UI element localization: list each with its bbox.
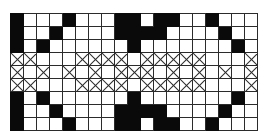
pattern-cell-cross[interactable] — [128, 66, 141, 79]
pattern-cell-empty[interactable] — [180, 40, 193, 53]
pattern-cell-empty[interactable] — [232, 53, 245, 66]
pattern-cell-filled[interactable] — [115, 118, 128, 131]
pattern-cell-empty[interactable] — [63, 40, 76, 53]
pattern-cell-cross[interactable] — [76, 79, 89, 92]
pattern-cell-cross[interactable] — [24, 53, 37, 66]
pattern-cell-empty[interactable] — [37, 79, 50, 92]
pattern-cell-empty[interactable] — [193, 27, 206, 40]
pattern-cell-filled[interactable] — [167, 14, 180, 27]
pattern-cell-empty[interactable] — [102, 40, 115, 53]
pattern-cell-filled[interactable] — [128, 118, 141, 131]
pattern-cell-empty[interactable] — [63, 27, 76, 40]
pattern-cell-empty[interactable] — [206, 27, 219, 40]
pattern-cell-empty[interactable] — [219, 92, 232, 105]
pattern-cell-empty[interactable] — [219, 79, 232, 92]
pattern-cell-empty[interactable] — [50, 40, 63, 53]
pattern-cell-filled[interactable] — [50, 105, 63, 118]
pattern-cell-empty[interactable] — [115, 40, 128, 53]
pattern-cell-filled[interactable] — [232, 40, 245, 53]
pattern-cell-cross[interactable] — [115, 66, 128, 79]
pattern-cell-empty[interactable] — [206, 79, 219, 92]
pattern-cell-empty[interactable] — [219, 118, 232, 131]
pattern-cell-empty[interactable] — [180, 118, 193, 131]
pattern-cell-empty[interactable] — [89, 118, 102, 131]
pattern-cell-empty[interactable] — [24, 14, 37, 27]
pattern-cell-cross[interactable] — [167, 79, 180, 92]
pattern-cell-cross[interactable] — [154, 53, 167, 66]
pattern-cell-empty[interactable] — [102, 14, 115, 27]
pattern-cell-cross[interactable] — [76, 53, 89, 66]
pattern-cell-filled[interactable] — [206, 14, 219, 27]
pattern-cell-empty[interactable] — [76, 40, 89, 53]
pattern-cell-empty[interactable] — [24, 27, 37, 40]
pattern-cell-cross[interactable] — [193, 66, 206, 79]
pattern-cell-filled[interactable] — [11, 105, 24, 118]
pattern-cell-cross[interactable] — [89, 66, 102, 79]
pattern-cell-empty[interactable] — [76, 14, 89, 27]
pattern-cell-cross[interactable] — [102, 79, 115, 92]
pattern-cell-filled[interactable] — [232, 92, 245, 105]
pattern-cell-cross[interactable] — [89, 79, 102, 92]
pattern-cell-empty[interactable] — [180, 66, 193, 79]
pattern-cell-filled[interactable] — [128, 105, 141, 118]
pattern-cell-empty[interactable] — [50, 66, 63, 79]
pattern-cell-empty[interactable] — [141, 92, 154, 105]
pattern-cell-empty[interactable] — [154, 66, 167, 79]
pattern-cell-cross[interactable] — [193, 79, 206, 92]
pattern-cell-empty[interactable] — [102, 66, 115, 79]
pattern-cell-cross[interactable] — [37, 66, 50, 79]
pattern-cell-empty[interactable] — [193, 118, 206, 131]
pattern-cell-empty[interactable] — [219, 14, 232, 27]
pattern-cell-empty[interactable] — [37, 27, 50, 40]
pattern-cell-filled[interactable] — [11, 118, 24, 131]
pattern-cell-empty[interactable] — [50, 53, 63, 66]
pattern-cell-empty[interactable] — [37, 118, 50, 131]
pattern-cell-filled[interactable] — [141, 27, 154, 40]
pattern-cell-empty[interactable] — [89, 92, 102, 105]
pattern-cell-empty[interactable] — [50, 79, 63, 92]
pattern-cell-cross[interactable] — [115, 53, 128, 66]
pattern-cell-empty[interactable] — [245, 27, 258, 40]
pattern-cell-empty[interactable] — [63, 92, 76, 105]
pattern-cell-empty[interactable] — [89, 27, 102, 40]
pattern-cell-empty[interactable] — [50, 118, 63, 131]
pattern-cell-empty[interactable] — [50, 92, 63, 105]
pattern-cell-empty[interactable] — [89, 14, 102, 27]
pattern-cell-empty[interactable] — [167, 27, 180, 40]
pattern-cell-empty[interactable] — [76, 66, 89, 79]
pattern-cell-filled[interactable] — [141, 105, 154, 118]
pattern-cell-empty[interactable] — [89, 40, 102, 53]
pattern-cell-empty[interactable] — [76, 27, 89, 40]
pattern-cell-empty[interactable] — [115, 92, 128, 105]
pattern-cell-cross[interactable] — [245, 66, 258, 79]
pattern-cell-empty[interactable] — [180, 14, 193, 27]
pattern-cell-empty[interactable] — [154, 40, 167, 53]
pattern-cell-empty[interactable] — [154, 92, 167, 105]
pattern-cell-empty[interactable] — [141, 14, 154, 27]
pattern-cell-empty[interactable] — [141, 40, 154, 53]
pattern-cell-filled[interactable] — [115, 105, 128, 118]
pattern-cell-empty[interactable] — [24, 40, 37, 53]
pattern-cell-cross[interactable] — [180, 79, 193, 92]
pattern-cell-empty[interactable] — [37, 53, 50, 66]
pattern-cell-empty[interactable] — [37, 14, 50, 27]
pattern-cell-empty[interactable] — [128, 53, 141, 66]
pattern-cell-empty[interactable] — [24, 66, 37, 79]
pattern-cell-empty[interactable] — [232, 14, 245, 27]
pattern-cell-empty[interactable] — [24, 105, 37, 118]
pattern-cell-empty[interactable] — [102, 105, 115, 118]
pattern-cell-filled[interactable] — [128, 14, 141, 27]
pattern-cell-empty[interactable] — [206, 53, 219, 66]
pattern-cell-cross[interactable] — [115, 79, 128, 92]
pattern-cell-empty[interactable] — [89, 105, 102, 118]
pattern-cell-empty[interactable] — [102, 92, 115, 105]
pattern-cell-empty[interactable] — [232, 66, 245, 79]
pattern-cell-empty[interactable] — [102, 27, 115, 40]
pattern-cell-cross[interactable] — [89, 53, 102, 66]
pattern-cell-empty[interactable] — [245, 14, 258, 27]
pattern-cell-empty[interactable] — [193, 105, 206, 118]
pattern-cell-empty[interactable] — [245, 92, 258, 105]
pattern-cell-filled[interactable] — [37, 40, 50, 53]
pattern-cell-filled[interactable] — [11, 40, 24, 53]
pattern-cell-cross[interactable] — [24, 79, 37, 92]
